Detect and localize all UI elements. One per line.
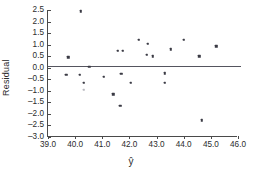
y-tick-label: 0.5 — [14, 50, 44, 61]
y-tick-label: –1.5 — [14, 96, 44, 107]
data-point — [138, 39, 140, 41]
y-tick-label: 1.5 — [14, 27, 44, 38]
data-point — [65, 73, 67, 75]
data-point — [130, 82, 132, 84]
x-axis-title-text: ŷ — [129, 156, 134, 167]
data-point — [120, 73, 122, 75]
y-axis-title-text: Residual — [1, 84, 11, 96]
y-tick-mark — [48, 56, 51, 57]
y-tick-label: 0.0 — [14, 62, 44, 73]
data-point — [146, 54, 148, 56]
x-axis-title: ŷ — [0, 156, 262, 167]
data-point — [164, 72, 166, 74]
y-tick-label: 2.5 — [14, 4, 44, 15]
y-tick-label: 2.0 — [14, 16, 44, 27]
y-tick-mark — [48, 10, 51, 11]
data-point — [215, 45, 217, 47]
y-tick-mark — [48, 68, 51, 69]
y-tick-label: –1.0 — [14, 85, 44, 96]
x-tick-mark — [238, 136, 239, 139]
data-point — [147, 43, 149, 45]
data-point — [83, 82, 85, 84]
data-point — [198, 55, 200, 57]
data-point — [79, 73, 81, 75]
data-point — [152, 55, 154, 57]
data-point — [117, 49, 119, 51]
y-tick-mark — [48, 114, 51, 115]
x-tick-mark — [157, 136, 158, 139]
data-point — [119, 105, 121, 107]
y-tick-mark — [48, 45, 51, 46]
x-tick-mark — [184, 136, 185, 139]
data-point — [102, 76, 104, 78]
x-tick-label: 46.0 — [222, 140, 254, 150]
zero-reference-line — [48, 66, 241, 68]
data-point — [79, 10, 81, 12]
y-tick-mark — [48, 102, 51, 103]
data-point — [122, 49, 124, 51]
data-point — [183, 39, 185, 41]
data-point — [169, 48, 171, 50]
x-tick-mark — [75, 136, 76, 139]
y-tick-mark — [48, 91, 51, 92]
x-tick-mark — [102, 136, 103, 139]
x-tick-mark — [48, 136, 49, 139]
y-tick-label: 1.0 — [14, 39, 44, 50]
data-point — [112, 93, 114, 95]
y-tick-mark — [48, 79, 51, 80]
data-point — [164, 82, 166, 84]
plot-area: 2.52.01.51.00.50.0–0.5–1.0–1.5–2.0–2.5–3… — [47, 10, 237, 137]
y-axis-title: Residual — [1, 22, 11, 34]
x-tick-mark — [211, 136, 212, 139]
y-tick-mark — [48, 22, 51, 23]
residual-scatter-figure: Residual 2.52.01.51.00.50.0–0.5–1.0–1.5–… — [0, 0, 262, 172]
x-tick-mark — [129, 136, 130, 139]
y-tick-label: –0.5 — [14, 73, 44, 84]
y-tick-label: –2.0 — [14, 108, 44, 119]
y-tick-mark — [48, 33, 51, 34]
data-point — [200, 119, 202, 121]
y-tick-label: –2.5 — [14, 119, 44, 130]
data-point — [67, 56, 69, 58]
data-point — [83, 88, 85, 90]
y-tick-mark — [48, 125, 51, 126]
